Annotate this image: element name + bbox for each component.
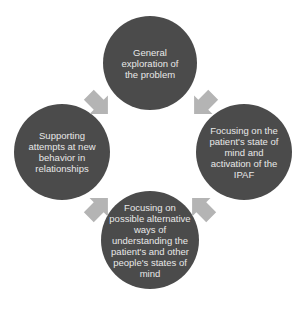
arrow-right-to-bottom-icon — [184, 190, 220, 226]
node-label: Focusing on possible alternative ways of… — [109, 202, 191, 279]
node-label: General exploration of the problem — [115, 47, 185, 80]
node-label: Supporting attempts at new behavior in r… — [26, 130, 98, 174]
arrow-top-to-right-icon — [186, 86, 222, 122]
node-general-exploration: General exploration of the problem — [103, 16, 197, 110]
arrow-left-to-top-icon — [80, 86, 116, 122]
node-label: Focusing on the patient's state of mind … — [206, 125, 282, 180]
cycle-diagram: General exploration of the problem Focus… — [0, 0, 301, 313]
arrow-bottom-to-left-icon — [80, 190, 116, 226]
